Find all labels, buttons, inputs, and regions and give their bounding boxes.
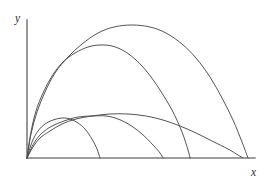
projectile-trajectories-figure: y x	[0, 0, 269, 181]
x-axis-label: x	[250, 166, 257, 178]
trajectory-plot-canvas: y x	[0, 0, 269, 181]
trajectory-3	[27, 114, 243, 158]
axes-group	[27, 20, 255, 158]
y-axis-label: y	[14, 12, 21, 25]
trajectory-curves-group	[27, 25, 248, 158]
trajectory-5	[27, 25, 248, 158]
trajectory-4	[27, 45, 190, 158]
